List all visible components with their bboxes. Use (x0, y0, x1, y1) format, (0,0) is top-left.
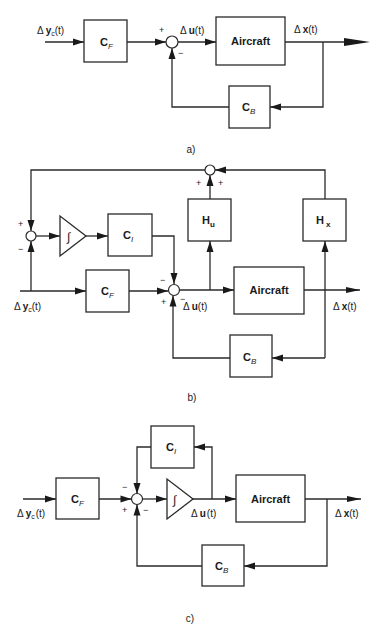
arrowhead-icon (272, 355, 283, 362)
sign-minus: − (122, 482, 127, 492)
arrowhead-icon (223, 287, 234, 294)
arrowhead-icon (322, 241, 329, 252)
sign-plus: + (122, 505, 127, 515)
arrowhead-icon (45, 496, 56, 503)
arrowhead-icon (207, 175, 214, 186)
sign-minus: − (160, 275, 165, 285)
arrowhead-icon (28, 220, 35, 231)
summing-junction (132, 494, 143, 505)
sign-plus: + (218, 178, 223, 188)
input-signal-label: Δyc(t) (14, 301, 41, 313)
arrowhead-icon (215, 167, 226, 174)
aircraft-label: Aircraft (251, 493, 290, 505)
arrowhead-icon (49, 233, 60, 240)
arrowhead-icon (134, 505, 141, 516)
sign-minus: − (178, 48, 183, 58)
arrowhead-icon (134, 483, 141, 494)
output-arrowhead-icon (347, 496, 361, 502)
diagram-a: Δyc(t) CF + − Δu(t) Aircraft Δx(t) CB a) (37, 17, 370, 155)
sign-minus: − (18, 244, 23, 254)
arrowhead-icon (157, 288, 168, 295)
top-summing-junction (205, 165, 215, 175)
diagram-c: CI Δyc(t) CF − + − ∫ Δu(t) A (17, 426, 361, 624)
sign-plus: + (161, 297, 166, 307)
state-signal-label: Δx(t) (294, 24, 318, 35)
left-summing-junction (26, 231, 36, 241)
arrowhead-icon (28, 241, 35, 252)
block-diagrams: Δyc(t) CF + − Δu(t) Aircraft Δx(t) CB a) (0, 0, 379, 637)
integrator-block (60, 216, 86, 256)
state-signal-label: Δx(t) (333, 301, 357, 312)
arrowhead-icon (207, 241, 214, 252)
control-signal-label: Δu(t) (183, 301, 207, 312)
cb-block (230, 335, 272, 377)
arrowhead-icon (170, 296, 177, 307)
integral-symbol: ∫ (66, 230, 71, 244)
arrowhead-icon (270, 104, 281, 111)
arrowhead-icon (205, 39, 216, 46)
sign-minus: − (143, 505, 148, 515)
arrowhead-icon (171, 273, 178, 284)
input-signal-label: Δyc(t) (17, 508, 45, 520)
state-signal-label: Δx(t) (335, 508, 359, 519)
output-arrowhead-icon (344, 38, 370, 46)
arrowhead-icon (225, 496, 236, 503)
arrowhead-icon (244, 563, 255, 570)
main-summing-junction (169, 285, 180, 296)
arrowhead-icon (75, 288, 86, 295)
arrowhead-icon (97, 233, 108, 240)
aircraft-label: Aircraft (249, 284, 288, 296)
control-signal-label: Δu(t) (191, 508, 216, 519)
arrowhead-icon (155, 39, 166, 46)
sign-plus: + (196, 178, 201, 188)
input-signal-label: Δyc(t) (37, 25, 64, 37)
control-signal-label: Δu(t) (180, 25, 204, 36)
arrowhead-icon (156, 496, 167, 503)
arrowhead-icon (169, 48, 176, 59)
caption-a: a) (187, 144, 196, 155)
diagram-b: + + Hu Hx + − ∫ CI (14, 165, 360, 403)
summing-junction (166, 36, 178, 48)
sign-plus: + (159, 25, 164, 35)
output-arrowhead-icon (346, 287, 360, 293)
aircraft-label: Aircraft (231, 35, 270, 47)
arrowhead-icon (73, 39, 84, 46)
caption-b: b) (188, 392, 197, 403)
arrowhead-icon (194, 444, 205, 451)
integral-symbol: ∫ (172, 493, 177, 507)
sign-plus: + (18, 219, 23, 229)
hx-block (303, 199, 346, 241)
caption-c: c) (186, 613, 194, 624)
arrowhead-icon (121, 496, 132, 503)
integrator-block (167, 479, 193, 519)
